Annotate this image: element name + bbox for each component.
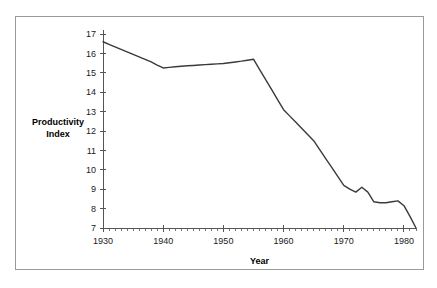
y-axis-title-line2: Index <box>46 129 70 139</box>
y-tick-label: 12 <box>86 126 96 136</box>
x-tick-label: 1950 <box>213 236 233 246</box>
y-tick-label: 14 <box>86 87 96 97</box>
y-axis-title-line1: Productivity <box>32 117 84 127</box>
y-tick-label: 9 <box>91 184 96 194</box>
y-tick-label: 16 <box>86 49 96 59</box>
y-tick-label: 17 <box>86 29 96 39</box>
x-tick-label: 1980 <box>394 236 414 246</box>
productivity-series-line <box>103 42 416 228</box>
y-axis-tick-labels: 7891011121314151617 <box>86 29 96 233</box>
x-tick-label: 1940 <box>153 236 173 246</box>
y-tick-label: 10 <box>86 165 96 175</box>
figure-frame: 7891011121314151617 19301940195019601970… <box>15 16 424 270</box>
y-tick-label: 7 <box>91 223 96 233</box>
chart-plot-area: 7891011121314151617 19301940195019601970… <box>16 17 425 271</box>
x-axis-title: Year <box>250 256 270 266</box>
x-tick-label: 1930 <box>93 236 113 246</box>
x-tick-label: 1970 <box>334 236 354 246</box>
y-tick-label: 15 <box>86 68 96 78</box>
productivity-index-line-chart: 7891011121314151617 19301940195019601970… <box>16 17 425 271</box>
y-tick-label: 11 <box>87 146 96 156</box>
y-tick-label: 13 <box>86 107 96 117</box>
y-tick-label: 8 <box>91 204 96 214</box>
x-axis-tick-labels: 193019401950196019701980 <box>93 236 414 246</box>
chart-screenshot: 7891011121314151617 19301940195019601970… <box>0 0 437 288</box>
x-tick-label: 1960 <box>274 236 294 246</box>
